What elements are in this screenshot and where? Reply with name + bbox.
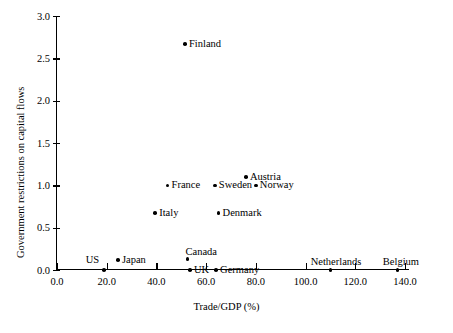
data-point-label: Finland — [189, 38, 221, 49]
data-point[interactable] — [188, 268, 192, 272]
data-point[interactable] — [116, 258, 120, 262]
x-tick-mark — [57, 263, 58, 270]
data-point[interactable] — [217, 211, 221, 215]
data-point-label: Italy — [159, 207, 178, 218]
x-tick-label: 80.0 — [234, 276, 278, 287]
x-tick-label: 60.0 — [184, 276, 228, 287]
data-point-label: US — [86, 254, 99, 265]
x-tick-label: 140.0 — [383, 276, 427, 287]
plot-area: 0.020.040.060.080.0100.0120.0140.0 0.00.… — [0, 0, 453, 333]
data-point-label: Germany — [220, 264, 259, 275]
data-point[interactable] — [102, 268, 106, 272]
data-point-label: Denmark — [223, 207, 262, 218]
x-tick-label: 120.0 — [333, 276, 377, 287]
y-tick-mark — [53, 228, 60, 229]
y-tick-mark — [53, 185, 60, 186]
data-point[interactable] — [396, 268, 400, 272]
data-point-label: Belgium — [383, 256, 419, 267]
data-point[interactable] — [244, 175, 248, 179]
y-axis-title: Government restrictions on capital flows — [15, 87, 26, 258]
x-tick-label: 0.0 — [35, 276, 79, 287]
data-point-label: Japan — [122, 254, 146, 265]
y-tick-label: 0.0 — [20, 265, 50, 276]
data-point[interactable] — [329, 268, 333, 272]
data-point-label: Canada — [186, 246, 218, 257]
data-point[interactable] — [213, 184, 217, 188]
data-point-label: France — [172, 179, 201, 190]
x-tick-label: 40.0 — [134, 276, 178, 287]
data-point[interactable] — [254, 184, 258, 188]
data-point[interactable] — [214, 268, 218, 272]
x-tick-label: 20.0 — [85, 276, 129, 287]
data-point[interactable] — [166, 184, 170, 188]
x-tick-mark — [156, 263, 157, 270]
x-axis-title: Trade/GDP (%) — [0, 301, 453, 312]
y-tick-mark — [53, 101, 60, 102]
data-point[interactable] — [183, 42, 187, 46]
y-tick-mark — [53, 270, 60, 271]
data-point[interactable] — [153, 211, 157, 215]
y-tick-mark — [53, 16, 60, 17]
x-tick-mark — [107, 263, 108, 270]
data-point-label: Netherlands — [311, 256, 362, 267]
y-tick-mark — [53, 58, 60, 59]
data-point[interactable] — [186, 257, 190, 261]
y-tick-label: 2.5 — [20, 53, 50, 64]
y-tick-mark — [53, 143, 60, 144]
x-tick-label: 100.0 — [284, 276, 328, 287]
data-point-label: Norway — [260, 179, 294, 190]
scatter-chart-figure: 0.020.040.060.080.0100.0120.0140.0 0.00.… — [0, 0, 453, 333]
data-point-label: Sweden — [219, 179, 252, 190]
x-tick-mark — [306, 263, 307, 270]
data-point-label: UK — [194, 264, 209, 275]
y-tick-label: 3.0 — [20, 11, 50, 22]
